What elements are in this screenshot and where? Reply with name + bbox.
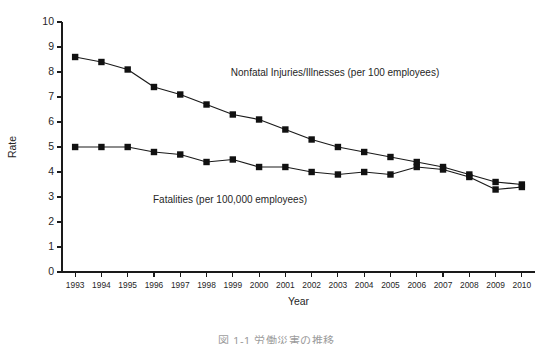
x-axis-tick-label: 2003 <box>329 280 348 290</box>
x-axis-tick-label: 1999 <box>223 280 242 290</box>
x-axis-tick-label: 2001 <box>276 280 295 290</box>
series-label-fatalities: Fatalities (per 100,000 employees) <box>153 194 307 205</box>
data-point <box>98 59 104 65</box>
x-axis-tick-label: 2002 <box>302 280 321 290</box>
x-axis-tick-label: 1993 <box>66 280 85 290</box>
x-axis-tick-label: 2000 <box>250 280 269 290</box>
data-point <box>466 174 472 180</box>
y-axis-tick-label: 6 <box>48 115 54 127</box>
data-point <box>98 144 104 150</box>
y-axis-tick-label: 9 <box>48 40 54 52</box>
data-point <box>440 166 446 172</box>
data-point <box>177 91 183 97</box>
data-point <box>361 169 367 175</box>
data-point <box>151 84 157 90</box>
data-point <box>72 54 78 60</box>
data-point <box>387 154 393 160</box>
y-axis-tick-label: 8 <box>48 65 54 77</box>
y-axis-tick-label: 3 <box>48 190 54 202</box>
data-point <box>124 66 130 72</box>
x-axis-tick-label: 2007 <box>434 280 453 290</box>
y-axis-tick-label: 4 <box>48 165 54 177</box>
series-line-1 <box>75 147 522 190</box>
data-point <box>177 151 183 157</box>
data-point <box>308 136 314 142</box>
y-axis-tick-label: 1 <box>48 240 54 252</box>
data-point <box>256 116 262 122</box>
data-point <box>335 171 341 177</box>
data-point <box>203 101 209 107</box>
y-axis-title: Rate <box>6 136 18 158</box>
y-axis-tick-label: 7 <box>48 90 54 102</box>
x-axis-tick-label: 1994 <box>92 280 111 290</box>
data-point <box>414 164 420 170</box>
figure-caption: 図 1-1 労働災害の推移 <box>0 332 553 344</box>
x-axis-tick-label: 2006 <box>407 280 426 290</box>
data-point <box>72 144 78 150</box>
data-point <box>308 169 314 175</box>
x-axis-tick-label: 1998 <box>197 280 216 290</box>
series-label-nonfatal: Nonfatal Injuries/Illnesses (per 100 emp… <box>231 67 439 78</box>
data-point <box>230 111 236 117</box>
data-point <box>124 144 130 150</box>
data-point <box>230 156 236 162</box>
y-axis-tick-label: 0 <box>48 265 54 277</box>
x-axis-tick-label: 1997 <box>171 280 190 290</box>
x-axis-tick-label: 1996 <box>145 280 164 290</box>
x-axis-title: Year <box>288 295 310 307</box>
x-axis-tick-label: 2005 <box>381 280 400 290</box>
x-axis-tick-label: 2004 <box>355 280 374 290</box>
data-point <box>519 184 525 190</box>
data-point <box>151 149 157 155</box>
data-point <box>203 159 209 165</box>
data-point <box>256 164 262 170</box>
x-axis-tick-label: 2008 <box>460 280 479 290</box>
data-point <box>492 186 498 192</box>
data-point <box>387 171 393 177</box>
x-axis-tick-label: 2010 <box>513 280 532 290</box>
y-axis-tick-label: 2 <box>48 215 54 227</box>
data-point <box>335 144 341 150</box>
y-axis-tick-label: 5 <box>48 140 54 152</box>
data-point <box>282 126 288 132</box>
y-axis-tick-label: 10 <box>42 15 54 27</box>
x-axis-tick-label: 1995 <box>118 280 137 290</box>
x-axis-tick-label: 2009 <box>486 280 505 290</box>
data-point <box>361 149 367 155</box>
data-point <box>492 179 498 185</box>
data-point <box>282 164 288 170</box>
